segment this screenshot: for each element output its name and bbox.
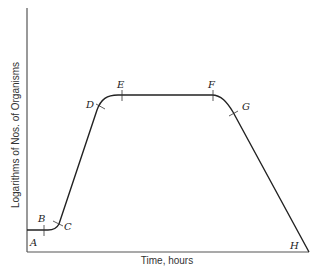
y-axis-label: Logarithms of Nos. of Organisms [10,62,21,208]
growth-curve-chart: A B C D E F G H Time, hours Logarithms o… [0,0,322,271]
point-label-e: E [116,79,125,90]
point-label-a: A [29,237,37,248]
point-label-f: F [207,79,216,90]
point-label-b: B [37,213,45,224]
point-label-c: C [64,221,72,232]
point-label-d: D [85,99,94,110]
point-label-g: G [242,101,250,112]
x-axis-label: Time, hours [141,255,193,266]
point-label-h: H [289,240,299,251]
